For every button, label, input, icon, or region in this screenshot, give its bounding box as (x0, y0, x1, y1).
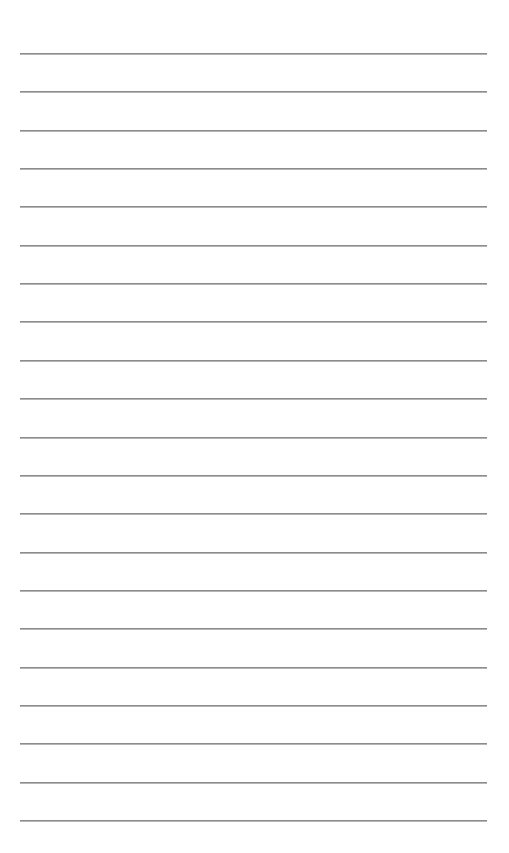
ruled-line (20, 782, 487, 784)
ruled-line (20, 437, 487, 439)
ruled-line (20, 743, 487, 745)
ruled-line (20, 705, 487, 707)
ruled-line (20, 398, 487, 400)
ruled-line (20, 168, 487, 170)
ruled-line (20, 206, 487, 208)
ruled-line (20, 283, 487, 285)
ruled-line (20, 590, 487, 592)
ruled-line (20, 667, 487, 669)
ruled-line (20, 245, 487, 247)
ruled-line (20, 628, 487, 630)
ruled-line (20, 360, 487, 362)
ruled-line (20, 321, 487, 323)
ruled-line (20, 820, 487, 822)
lined-paper-page (0, 0, 509, 853)
ruled-line (20, 475, 487, 477)
ruled-line (20, 552, 487, 554)
ruled-line (20, 91, 487, 93)
ruled-line (20, 513, 487, 515)
ruled-line (20, 53, 487, 55)
ruled-line (20, 130, 487, 132)
